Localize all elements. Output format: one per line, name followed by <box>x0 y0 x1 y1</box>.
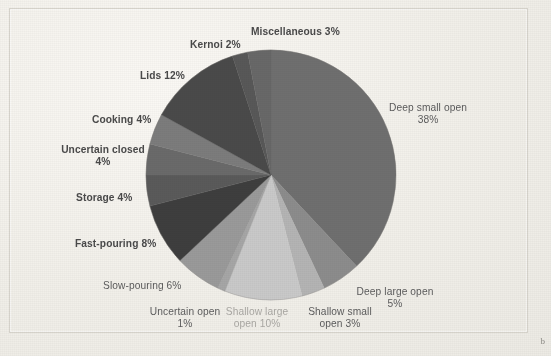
pie-label-shallow-large-open-percent: open 10% <box>234 318 281 329</box>
pie-chart <box>0 0 551 356</box>
pie-label-storage: Storage 4% <box>76 192 132 204</box>
pie-chart-plot-area: Miscellaneous 3% Kernoi 2% Lids 12% Cook… <box>0 0 551 356</box>
pie-label-shallow-large-open-name: Shallow large <box>226 306 288 317</box>
pie-label-uncertain-closed: Uncertain closed 4% <box>48 144 158 169</box>
pie-label-uncertain-open-percent: 1% <box>178 318 193 329</box>
pie-label-lids: Lids 12% <box>140 70 185 82</box>
figure-container: Miscellaneous 3% Kernoi 2% Lids 12% Cook… <box>0 0 551 356</box>
pie-label-uncertain-closed-percent: 4% <box>96 156 111 167</box>
pie-label-deep-large-open: Deep large open 5% <box>346 286 444 311</box>
pie-label-shallow-small-open-percent: open 3% <box>320 318 361 329</box>
pie-label-uncertain-closed-name: Uncertain closed <box>61 144 145 155</box>
pie-label-slow-pouring: Slow-pouring 6% <box>103 280 182 292</box>
pie-label-cooking: Cooking 4% <box>92 114 151 126</box>
pie-label-deep-large-open-name: Deep large open <box>357 286 434 297</box>
pie-label-deep-large-open-percent: 5% <box>388 298 403 309</box>
pie-label-uncertain-open-name: Uncertain open <box>150 306 221 317</box>
pie-label-kernoi: Kernoi 2% <box>190 39 241 51</box>
pie-label-miscellaneous: Miscellaneous 3% <box>251 26 340 38</box>
pie-label-shallow-large-open: Shallow large open 10% <box>218 306 296 331</box>
pie-label-deep-small-open-percent: 38% <box>418 114 439 125</box>
pie-label-deep-small-open: Deep small open 38% <box>378 102 478 127</box>
pie-label-deep-small-open-name: Deep small open <box>389 102 467 113</box>
figure-panel-marker: b <box>541 336 546 346</box>
pie-label-fast-pouring: Fast-pouring 8% <box>75 238 156 250</box>
